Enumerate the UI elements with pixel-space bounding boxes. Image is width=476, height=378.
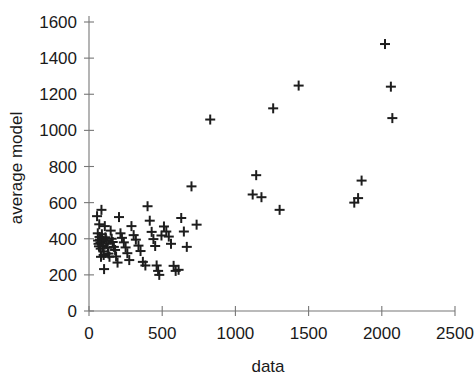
y-tick-label: 800 [49,158,77,177]
x-axis-title: data [251,357,285,376]
x-tick-label: 2000 [363,324,401,343]
data-point [150,241,160,251]
y-tick-label: 200 [49,266,77,285]
data-point [99,264,109,274]
data-point [152,260,162,270]
data-point [251,170,261,180]
y-tick-label: 1200 [39,85,77,104]
data-point [94,219,104,229]
data-point [192,220,202,230]
y-tick-label: 600 [49,194,77,213]
data-point [268,103,278,113]
data-point [159,221,169,231]
data-point [294,81,304,91]
axis-lines-group [89,16,455,311]
x-tick-label: 1000 [216,324,254,343]
data-point [145,216,155,226]
data-point [119,237,129,247]
data-point [121,242,131,252]
data-point [176,213,186,223]
chart-canvas: 02004006008001000120014001600 0500100015… [0,0,476,378]
y-tick-label: 0 [68,302,77,321]
tick-marks-group [84,22,455,316]
x-tick-label: 0 [84,324,93,343]
y-axis-tick-label-group: 02004006008001000120014001600 [39,13,77,321]
y-tick-label: 400 [49,230,77,249]
scatter-plot-figure: 02004006008001000120014001600 0500100015… [0,0,476,378]
data-point [136,246,146,256]
data-point [115,228,125,238]
x-tick-label: 1500 [290,324,328,343]
data-point [106,226,116,236]
data-point [205,115,215,125]
y-tick-label: 1000 [39,121,77,140]
data-point [186,181,196,191]
data-point [164,232,174,242]
data-point [386,82,396,92]
data-point [387,113,397,123]
data-point [117,233,127,243]
x-tick-label: 2500 [436,324,474,343]
data-point [114,212,124,222]
y-axis-title: average model [7,112,26,224]
data-point [248,189,258,199]
data-point [179,227,189,237]
y-tick-label: 1400 [39,49,77,68]
data-point-group [92,39,397,280]
data-point [256,192,266,202]
data-point [126,221,136,231]
data-point [380,39,390,49]
y-tick-label: 1600 [39,13,77,32]
data-point [357,176,367,186]
data-point [182,242,192,252]
data-point [124,255,134,265]
data-point [275,205,285,215]
data-point [129,230,139,240]
x-tick-label: 500 [148,324,176,343]
data-point [147,227,157,237]
data-point [166,239,176,249]
data-point [122,248,132,258]
data-point [143,201,153,211]
data-point [113,258,123,268]
x-axis-tick-label-group: 05001000150020002500 [84,324,474,343]
